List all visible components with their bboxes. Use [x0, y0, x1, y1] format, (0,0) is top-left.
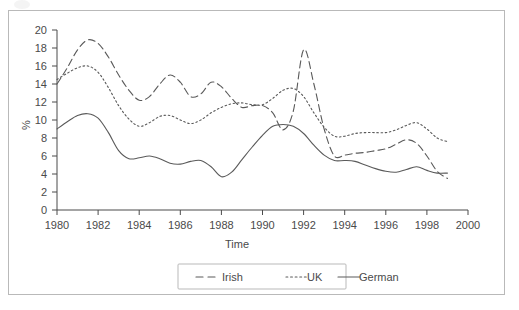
x-tick-label: 1990 [250, 219, 274, 231]
legend-label-german: German [359, 271, 399, 283]
x-axis-ticks: 1980198219841986198819901992199419961998… [45, 210, 480, 231]
y-tick-label: 12 [35, 96, 47, 108]
x-tick-label: 1996 [374, 219, 398, 231]
series-line-irish [57, 40, 447, 179]
x-tick-label: 1982 [86, 219, 110, 231]
y-tick-label: 14 [35, 78, 47, 90]
legend-label-uk: UK [307, 271, 323, 283]
y-tick-label: 16 [35, 60, 47, 72]
series-line-uk [57, 66, 447, 142]
legend-label-irish: Irish [222, 271, 243, 283]
x-tick-label: 1992 [291, 219, 315, 231]
y-axis-title: % [20, 120, 32, 130]
y-tick-label: 4 [41, 168, 47, 180]
x-tick-label: 1988 [209, 219, 233, 231]
series-paths [57, 40, 447, 179]
y-tick-label: 10 [35, 114, 47, 126]
x-tick-label: 1998 [415, 219, 439, 231]
figure-root: 02468101214161820 1980198219841986198819… [0, 0, 519, 310]
y-tick-label: 8 [41, 132, 47, 144]
x-axis-title: Time [225, 238, 249, 250]
y-tick-label: 6 [41, 150, 47, 162]
x-tick-label: 1984 [127, 219, 151, 231]
y-axis-ticks: 02468101214161820 [35, 24, 57, 216]
y-tick-label: 20 [35, 24, 47, 36]
y-tick-label: 0 [41, 204, 47, 216]
x-tick-label: 2000 [456, 219, 480, 231]
x-tick-label: 1980 [45, 219, 69, 231]
y-tick-label: 2 [41, 186, 47, 198]
x-tick-label: 1986 [168, 219, 192, 231]
line-chart: 02468101214161820 1980198219841986198819… [0, 0, 519, 310]
y-tick-label: 18 [35, 42, 47, 54]
x-tick-label: 1994 [332, 219, 356, 231]
series-line-german [57, 114, 447, 177]
